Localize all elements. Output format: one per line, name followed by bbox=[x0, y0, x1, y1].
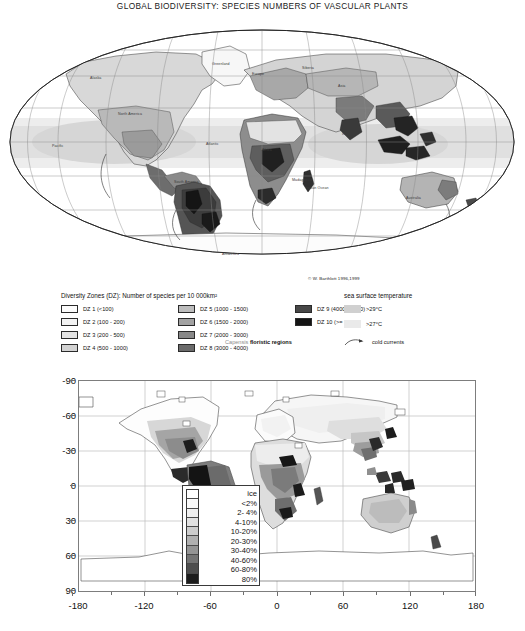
legend-item-cold-currents[interactable]: cold currents bbox=[344, 338, 404, 346]
page-root: GLOBAL BIODIVERSITY: SPECIES NUMBERS OF … bbox=[0, 0, 525, 631]
legend-item-sst-27[interactable]: >27°C bbox=[344, 319, 382, 328]
page-title: GLOBAL BIODIVERSITY: SPECIES NUMBERS OF … bbox=[0, 1, 525, 11]
legend-title-diversity-zones: Diversity Zones (DZ): Number of species … bbox=[61, 292, 217, 299]
heat-region-africa bbox=[251, 439, 323, 529]
x-tick-0: 0 bbox=[255, 600, 299, 611]
heat-region-southeast-asia bbox=[367, 467, 415, 493]
legend-item-dz4[interactable]: DZ 4 (500 - 1000) bbox=[61, 343, 128, 352]
map-copyright: © W. Barthlott 1996,1999 bbox=[308, 276, 360, 281]
x-tickmark-minor-6 bbox=[443, 592, 444, 595]
ice-cell-ice bbox=[187, 490, 198, 499]
ice-cell-20-30 bbox=[187, 536, 198, 545]
legend-label-sst-29: >29°C bbox=[366, 306, 382, 312]
world-map-svg bbox=[6, 14, 519, 276]
ice-label-4-10: 4-10% bbox=[202, 518, 259, 528]
legend-swatch-dz4 bbox=[61, 344, 78, 352]
map-label-north-america: North America bbox=[118, 112, 142, 116]
legend-title-sst: sea surface temperature bbox=[344, 292, 412, 299]
x-tick-120: 120 bbox=[388, 600, 432, 611]
legend-swatch-dz8 bbox=[178, 344, 195, 352]
y-tickmark-90 bbox=[70, 590, 75, 591]
global-biodiversity-map: © W. Barthlott 1996,1999 Alaska Greenlan… bbox=[6, 14, 519, 276]
legend-swatch-dz7 bbox=[178, 331, 195, 339]
x-tickmark-60 bbox=[343, 592, 344, 596]
ice-cell-10-20 bbox=[187, 527, 198, 536]
legend-swatch-dz9 bbox=[295, 305, 312, 313]
ice-label-30-40: 30-40% bbox=[202, 546, 259, 556]
x-tick--60: -60 bbox=[188, 600, 232, 611]
y-tickmark-60 bbox=[70, 555, 75, 556]
ice-cell-lt2 bbox=[187, 499, 198, 508]
map-label-south-america: South America bbox=[174, 180, 199, 184]
legend-label-dz1: DZ 1 (<100) bbox=[83, 306, 114, 312]
x-tickmark-minor-5 bbox=[376, 592, 377, 595]
legend-swatch-sst-27 bbox=[344, 320, 361, 328]
ice-label-lt2: <2% bbox=[202, 499, 259, 509]
map-label-asia: Asia bbox=[338, 84, 345, 88]
plot-area: ice <2% 2- 4% 4-10% 10-20% 20-30% 30-40%… bbox=[78, 380, 476, 592]
legend-swatch-dz5 bbox=[178, 305, 195, 313]
legend-swatch-dz10 bbox=[295, 318, 312, 326]
ice-label-80: 80% bbox=[202, 575, 259, 585]
x-tick--120: -120 bbox=[122, 600, 166, 611]
y-tickmark--90 bbox=[70, 380, 75, 381]
map-label-antarctica: Antarctica bbox=[222, 252, 239, 256]
legend-label-dz4: DZ 4 (500 - 1000) bbox=[83, 345, 128, 351]
ice-label-ice: ice bbox=[202, 489, 259, 499]
legend-swatch-dz2 bbox=[61, 318, 78, 326]
legend-capensis-desc: floristic regions bbox=[250, 339, 292, 345]
map-label-india: India bbox=[342, 132, 350, 136]
map-label-alaska: Alaska bbox=[90, 76, 101, 80]
ice-cell-80 bbox=[187, 574, 198, 583]
legend-label-dz5: DZ 5 (1000 - 1500) bbox=[200, 306, 248, 312]
map-label-siberia: Siberia bbox=[302, 66, 314, 70]
legend-item-dz1[interactable]: DZ 1 (<100) bbox=[61, 304, 114, 313]
y-tickmark-30 bbox=[70, 520, 75, 521]
map-label-europe: Europe bbox=[252, 72, 264, 76]
ice-label-2-4: 2- 4% bbox=[202, 508, 259, 518]
ice-label-10-20: 10-20% bbox=[202, 527, 259, 537]
ice-cell-40-60 bbox=[187, 555, 198, 564]
y-tickmark--30 bbox=[70, 450, 75, 451]
legend-capensis: Capensis floristic regions bbox=[225, 339, 292, 345]
legend-swatch-dz1 bbox=[61, 305, 78, 313]
y-tickmark-0 bbox=[70, 485, 75, 486]
x-tickmark-minor-1 bbox=[111, 592, 112, 595]
legend-label-sst-27: >27°C bbox=[366, 321, 382, 327]
ice-legend-labels: ice <2% 2- 4% 4-10% 10-20% 20-30% 30-40%… bbox=[202, 489, 259, 584]
heatmap-svg bbox=[79, 381, 475, 591]
legend-item-dz7[interactable]: DZ 7 (2000 - 3000) bbox=[178, 330, 248, 339]
ice-legend[interactable]: ice <2% 2- 4% 4-10% 10-20% 20-30% 30-40%… bbox=[182, 485, 260, 586]
x-tickmark-minor-2 bbox=[177, 592, 178, 595]
ice-cell-2-4 bbox=[187, 509, 198, 518]
map-label-greenland: Greenland bbox=[212, 62, 230, 66]
legend-item-dz6[interactable]: DZ 6 (1500 - 2000) bbox=[178, 317, 248, 326]
ice-label-60-80: 60-80% bbox=[202, 565, 259, 575]
legend-item-dz3[interactable]: DZ 3 (200 - 500) bbox=[61, 330, 125, 339]
cold-current-arrow-icon bbox=[344, 338, 366, 346]
map-label-indian-ocean: Indian Ocean bbox=[306, 186, 329, 190]
x-tickmark--120 bbox=[144, 592, 145, 596]
legend-item-sst-29[interactable]: >29°C bbox=[344, 304, 382, 313]
legend-capensis-name: Capensis bbox=[225, 339, 248, 345]
ice-cell-4-10 bbox=[187, 518, 198, 527]
legend-item-dz5[interactable]: DZ 5 (1000 - 1500) bbox=[178, 304, 248, 313]
x-tickmark-180 bbox=[475, 592, 476, 596]
legend-label-dz7: DZ 7 (2000 - 3000) bbox=[200, 332, 248, 338]
legend-label-cold-currents: cold currents bbox=[372, 339, 404, 345]
legend-label-dz8: DZ 8 (3000 - 4000) bbox=[200, 345, 248, 351]
legend-swatch-dz6 bbox=[178, 318, 195, 326]
legend-label-dz3: DZ 3 (200 - 500) bbox=[83, 332, 125, 338]
map-label-australia: Australia bbox=[406, 196, 421, 200]
ice-cell-60-80 bbox=[187, 564, 198, 573]
x-tickmark-minor-3 bbox=[243, 592, 244, 595]
legend-label-dz6: DZ 6 (1500 - 2000) bbox=[200, 319, 248, 325]
x-tick--180: -180 bbox=[56, 600, 100, 611]
x-tickmark-minor-4 bbox=[310, 592, 311, 595]
x-tick-60: 60 bbox=[321, 600, 365, 611]
x-tickmark-0 bbox=[277, 592, 278, 596]
ice-label-40-60: 40-60% bbox=[202, 556, 259, 566]
ice-legend-colorbar bbox=[186, 489, 199, 584]
y-tickmark--60 bbox=[70, 415, 75, 416]
legend-item-dz2[interactable]: DZ 2 (100 - 200) bbox=[61, 317, 125, 326]
